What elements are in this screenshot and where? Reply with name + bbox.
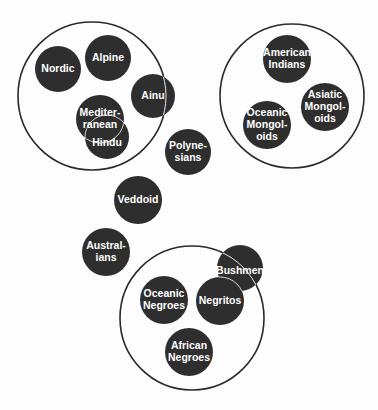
nordic-label: Nordic	[41, 62, 74, 74]
hindu-label: Hindu	[92, 136, 122, 148]
alpine-label-line: Alpine	[92, 51, 124, 63]
veddoid-label-line: Veddoid	[118, 193, 159, 205]
oceanic-mongoloids-label-line: oids	[256, 130, 278, 142]
asiatic-mongoloids-label-line: Mongol-	[305, 100, 346, 112]
negritos-label: Negritos	[199, 294, 242, 306]
nordic-label-line: Nordic	[41, 62, 74, 74]
alpine-label: Alpine	[92, 51, 124, 63]
population-nodes	[35, 35, 349, 376]
australians-label-line: ians	[95, 251, 116, 263]
mediterranean-label: Mediter-ranean	[80, 106, 121, 130]
american-indians-label-line: Indians	[269, 58, 306, 70]
oceanic-negroes-label-line: Negroes	[143, 299, 185, 311]
polynesians-label-line: Polyne-	[169, 139, 207, 151]
american-indians-label-line: American	[263, 46, 311, 58]
polynesians-label-line: sians	[175, 151, 202, 163]
negritos-label-line: Negritos	[199, 294, 242, 306]
hindu-label-line: Hindu	[92, 136, 122, 148]
node-labels: NordicAlpineAinuMediter-raneanHinduAmeri…	[41, 46, 346, 363]
oceanic-negroes-label: OceanicNegroes	[143, 287, 185, 311]
african-negroes-label-line: Negroes	[168, 351, 210, 363]
bushmen-label-line: Bushmen	[216, 264, 264, 276]
oceanic-negroes-label-line: Oceanic	[144, 287, 185, 299]
ainu-label-line: Ainu	[141, 89, 164, 101]
asiatic-mongoloids-label-line: Asiatic	[308, 88, 343, 100]
american-indians-label: AmericanIndians	[263, 46, 311, 70]
bushmen-label: Bushmen	[216, 264, 264, 276]
mediterranean-label-line: Mediter-	[80, 106, 121, 118]
oceanic-mongoloids-label-line: Mongol-	[247, 118, 288, 130]
african-negroes-label: AfricanNegroes	[168, 339, 210, 363]
australians-label-line: Austral-	[86, 239, 126, 251]
african-negroes-label-line: African	[171, 339, 207, 351]
ainu-label: Ainu	[141, 89, 164, 101]
oceanic-mongoloids-label-line: Oceanic	[247, 106, 288, 118]
veddoid-label: Veddoid	[118, 193, 159, 205]
asiatic-mongoloids-label-line: oids	[314, 112, 336, 124]
mediterranean-label-line: ranean	[83, 118, 117, 130]
race-groups-diagram: NordicAlpineAinuMediter-raneanHinduAmeri…	[0, 0, 378, 410]
